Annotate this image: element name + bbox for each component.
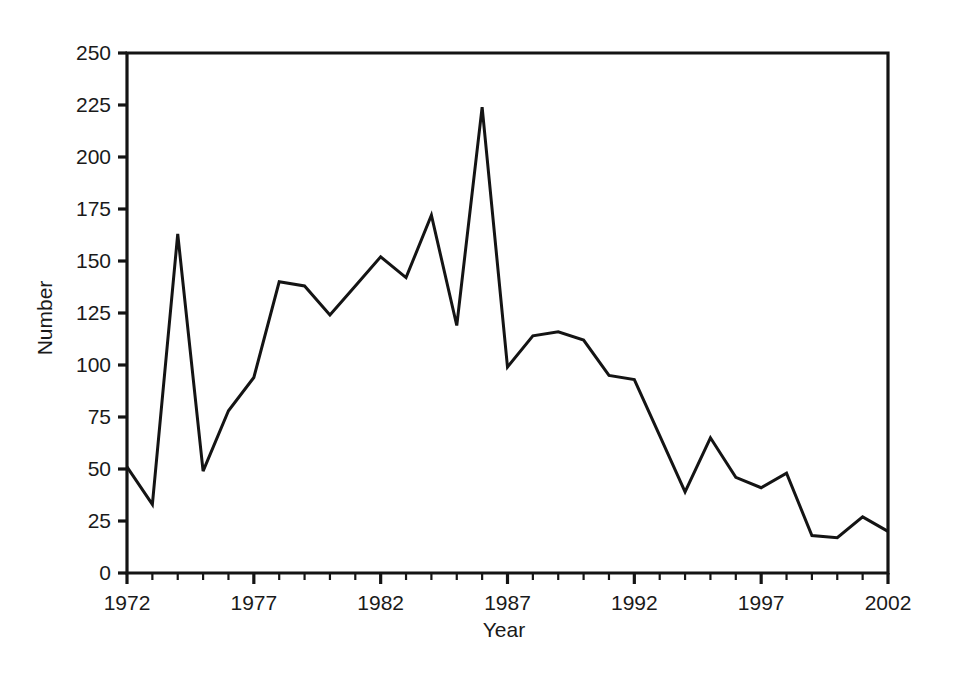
y-tick-label: 175	[76, 197, 111, 220]
data-series-line	[127, 107, 888, 538]
x-tick-label: 1982	[357, 591, 404, 614]
y-axis-tick-labels: 0255075100125150175200225250	[76, 41, 111, 584]
y-tick-label: 225	[76, 93, 111, 116]
y-tick-label: 200	[76, 145, 111, 168]
y-tick-label: 0	[99, 561, 111, 584]
x-axis-title: Year	[483, 618, 525, 641]
x-tick-label: 1997	[738, 591, 785, 614]
x-tick-label: 1987	[484, 591, 531, 614]
line-chart: 0255075100125150175200225250 19721977198…	[0, 0, 959, 676]
x-tick-label: 1972	[104, 591, 151, 614]
x-tick-label: 1977	[230, 591, 277, 614]
y-tick-label: 25	[88, 509, 111, 532]
y-tick-label: 75	[88, 405, 111, 428]
y-tick-label: 150	[76, 249, 111, 272]
plot-axis-frame	[127, 53, 888, 573]
y-tick-label: 125	[76, 301, 111, 324]
x-axis-tick-marks	[127, 573, 888, 584]
y-tick-label: 100	[76, 353, 111, 376]
y-tick-label: 50	[88, 457, 111, 480]
x-tick-label: 2002	[865, 591, 912, 614]
y-axis-title: Number	[33, 281, 56, 356]
x-tick-label: 1992	[611, 591, 658, 614]
x-axis-tick-labels: 1972197719821987199219972002	[104, 591, 912, 614]
chart-figure: 0255075100125150175200225250 19721977198…	[0, 0, 959, 676]
y-tick-label: 250	[76, 41, 111, 64]
